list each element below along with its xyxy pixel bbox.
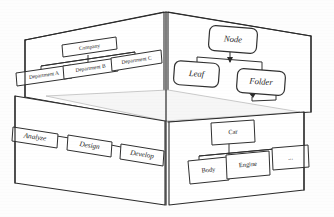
bottom-right-panel[interactable]: Car Body Engine ... — [169, 112, 309, 205]
diagram-canvas: Company Department A Department B Depart… — [0, 0, 334, 217]
node-body[interactable]: Body — [188, 157, 229, 184]
node-leaf-label: Leaf — [188, 68, 207, 79]
node-node[interactable]: Node — [208, 25, 258, 53]
isometric-box-illustration: Company Department A Department B Depart… — [0, 0, 334, 217]
node-folder[interactable]: Folder — [236, 68, 286, 95]
node-node-label: Node — [223, 33, 243, 44]
node-leaf[interactable]: Leaf — [173, 60, 220, 87]
node-folder-label: Folder — [248, 76, 274, 88]
node-car-label: Car — [228, 128, 239, 136]
node-engine[interactable]: Engine — [226, 151, 270, 179]
node-car[interactable]: Car — [211, 120, 255, 145]
node-body-label: Body — [201, 165, 216, 173]
